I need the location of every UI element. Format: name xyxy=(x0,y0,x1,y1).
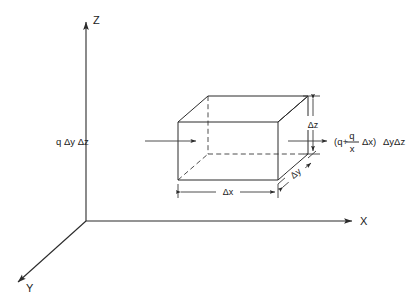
delta-z-dimension: Δz xyxy=(303,96,323,154)
heat-outflow-delta-x-term: Δx) xyxy=(362,136,376,147)
y-axis-label: Y xyxy=(26,282,34,294)
heat-outflow-fraction-numerator: q xyxy=(349,130,354,141)
delta-x-dimension: Δx xyxy=(178,184,278,198)
delta-y-extension-far xyxy=(308,151,316,158)
heat-outflow-annotation: (q+ q x Δx) ΔyΔz xyxy=(288,130,405,154)
control-volume-box xyxy=(178,96,308,180)
box-front-face xyxy=(178,122,278,180)
delta-y-dimension: Δy xyxy=(278,151,316,187)
x-axis-label: X xyxy=(360,215,368,227)
heat-inflow-annotation: q Δy Δz xyxy=(56,136,196,147)
heat-outflow-area-term: ΔyΔz xyxy=(383,136,405,147)
box-top-face xyxy=(178,96,308,122)
heat-inflow-label: q Δy Δz xyxy=(56,136,89,147)
z-axis-label: Z xyxy=(93,14,100,26)
delta-y-extension-near xyxy=(278,177,286,184)
heat-conduction-control-volume-figure: Z X Y xyxy=(0,0,419,301)
heat-outflow-open-term: (q+ xyxy=(334,136,348,147)
delta-z-label: Δz xyxy=(308,120,319,130)
heat-outflow-fraction-denominator: x xyxy=(350,143,355,154)
hidden-edge-bottom-left-diagonal xyxy=(178,154,208,180)
z-axis: Z xyxy=(86,14,100,221)
delta-x-label: Δx xyxy=(223,187,234,197)
x-axis: X xyxy=(86,215,368,227)
y-axis: Y xyxy=(18,221,86,294)
